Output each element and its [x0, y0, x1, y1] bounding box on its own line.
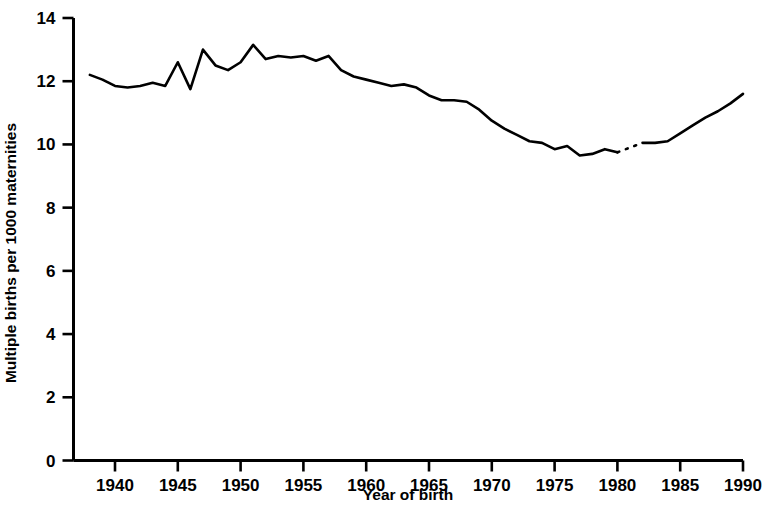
x-axis-tick-label: 1985: [661, 476, 699, 495]
y-axis-ticks: [63, 18, 74, 461]
x-axis-title: Year of birth: [363, 486, 453, 503]
y-axis-title: Multiple births per 1000 maternities: [2, 123, 19, 383]
y-axis-tick-label: 12: [37, 72, 56, 91]
x-axis-tick-label: 1970: [473, 476, 511, 495]
x-axis-tick-label: 1955: [284, 476, 322, 495]
y-axis-tick-label: 6: [46, 262, 55, 281]
y-axis-tick-labels: 02468101214: [37, 9, 56, 471]
x-axis-tick-label: 1945: [159, 476, 197, 495]
line-chart: 02468101214 1940194519501955196019651970…: [0, 0, 764, 507]
y-axis-tick-label: 14: [37, 9, 56, 28]
x-axis-tick-label: 1990: [724, 476, 762, 495]
chart-figure: 02468101214 1940194519501955196019651970…: [0, 0, 764, 507]
data-line-segment-late: [643, 94, 743, 143]
x-axis-ticks: [115, 461, 743, 472]
data-line-segment-early: [90, 45, 618, 156]
y-axis-tick-label: 2: [46, 388, 55, 407]
x-axis-tick-label: 1980: [598, 476, 636, 495]
x-axis-tick-label: 1950: [222, 476, 260, 495]
x-axis-tick-label: 1940: [96, 476, 134, 495]
data-line-segment-dotted-gap: [617, 143, 642, 152]
y-axis-tick-label: 10: [37, 135, 56, 154]
y-axis-tick-label: 8: [46, 199, 55, 218]
x-axis-tick-label: 1975: [536, 476, 574, 495]
y-axis-tick-label: 0: [46, 452, 55, 471]
y-axis-tick-label: 4: [46, 325, 56, 344]
